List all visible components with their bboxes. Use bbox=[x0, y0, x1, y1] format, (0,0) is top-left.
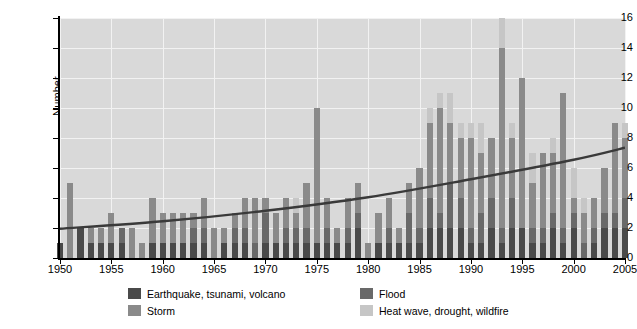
bar-segment bbox=[375, 243, 381, 258]
bar-segment bbox=[365, 243, 371, 258]
bar-segment bbox=[509, 228, 515, 258]
bar-segment bbox=[529, 228, 535, 243]
bar-segment bbox=[437, 213, 443, 228]
bar-segment bbox=[499, 243, 505, 258]
bar-1978 bbox=[345, 198, 351, 258]
x-tick-label: 2000 bbox=[561, 263, 585, 275]
bar-segment bbox=[232, 243, 238, 258]
bar-segment bbox=[345, 198, 351, 228]
bar-segment bbox=[468, 138, 474, 228]
bar-1984 bbox=[406, 183, 412, 258]
gridline-horizontal bbox=[60, 18, 625, 19]
bar-segment bbox=[180, 243, 186, 258]
bar-segment bbox=[437, 108, 443, 213]
bar-2004 bbox=[612, 123, 618, 258]
bar-1981 bbox=[375, 213, 381, 258]
x-tick-label: 1975 bbox=[305, 263, 329, 275]
bar-segment bbox=[232, 213, 238, 228]
x-tick-label: 1985 bbox=[407, 263, 431, 275]
x-tick-mark bbox=[265, 258, 266, 264]
x-tick-mark bbox=[574, 258, 575, 264]
bar-segment bbox=[386, 228, 392, 243]
bar-segment bbox=[201, 243, 207, 258]
legend-item[interactable]: Heat wave, drought, wildfire bbox=[360, 305, 528, 317]
bar-segment bbox=[540, 243, 546, 258]
bar-1995 bbox=[519, 78, 525, 258]
y-tick-label: 12 bbox=[589, 72, 633, 83]
bar-1999 bbox=[560, 93, 566, 258]
bar-segment bbox=[571, 213, 577, 228]
bar-segment bbox=[262, 198, 268, 213]
bar-1959 bbox=[149, 198, 155, 258]
bar-segment bbox=[478, 243, 484, 258]
x-tick-mark bbox=[420, 258, 421, 264]
bar-1996 bbox=[529, 153, 535, 258]
bar-1952 bbox=[77, 228, 83, 258]
bar-segment bbox=[303, 228, 309, 243]
bar-segment bbox=[160, 243, 166, 258]
y-tick-mark bbox=[53, 18, 59, 19]
legend-item[interactable]: Earthquake, tsunami, volcano bbox=[128, 288, 360, 300]
bar-segment bbox=[262, 213, 268, 243]
bar-1974 bbox=[303, 183, 309, 258]
bar-segment bbox=[571, 168, 577, 198]
bar-1969 bbox=[252, 198, 258, 258]
y-tick-mark bbox=[53, 48, 59, 49]
bar-1979 bbox=[355, 183, 361, 258]
bar-segment bbox=[581, 213, 587, 243]
bar-segment bbox=[478, 123, 484, 153]
gridline-horizontal bbox=[60, 108, 625, 109]
bar-segment bbox=[283, 243, 289, 258]
bar-1958 bbox=[139, 243, 145, 258]
bar-segment bbox=[458, 123, 464, 138]
bar-segment bbox=[427, 198, 433, 228]
bar-2003 bbox=[601, 168, 607, 258]
bar-segment bbox=[170, 243, 176, 258]
bar-segment bbox=[355, 213, 361, 228]
bar-1962 bbox=[180, 213, 186, 258]
y-tick-label: 14 bbox=[589, 42, 633, 53]
y-tick-label: 0 bbox=[589, 252, 633, 263]
bar-1966 bbox=[221, 228, 227, 258]
bar-segment bbox=[314, 108, 320, 243]
bar-segment bbox=[478, 213, 484, 243]
bar-1997 bbox=[540, 153, 546, 258]
x-tick-label: 1970 bbox=[253, 263, 277, 275]
bar-segment bbox=[242, 228, 248, 243]
bar-segment bbox=[560, 228, 566, 243]
bar-segment bbox=[509, 138, 515, 198]
bar-2000 bbox=[571, 168, 577, 258]
x-tick-mark bbox=[163, 258, 164, 264]
y-tick-mark bbox=[53, 228, 59, 229]
legend-item[interactable]: Storm bbox=[128, 305, 360, 317]
bar-segment bbox=[252, 198, 258, 243]
bar-1951 bbox=[67, 183, 73, 258]
bar-1994 bbox=[509, 123, 515, 258]
bar-segment bbox=[303, 183, 309, 228]
bar-segment bbox=[571, 198, 577, 213]
bar-segment bbox=[273, 243, 279, 258]
bar-segment bbox=[416, 243, 422, 258]
bar-segment bbox=[396, 228, 402, 243]
x-tick-mark bbox=[111, 258, 112, 264]
bar-segment bbox=[550, 138, 556, 153]
legend-swatch-icon bbox=[360, 305, 373, 316]
bar-segment bbox=[139, 243, 145, 258]
bar-segment bbox=[221, 243, 227, 258]
legend-item[interactable]: Flood bbox=[360, 288, 528, 300]
bar-1998 bbox=[550, 138, 556, 258]
bar-segment bbox=[550, 153, 556, 213]
x-tick-mark bbox=[368, 258, 369, 264]
bar-segment bbox=[190, 228, 196, 243]
bar-segment bbox=[160, 213, 166, 243]
bar-segment bbox=[293, 198, 299, 213]
bar-segment bbox=[581, 198, 587, 213]
bar-1957 bbox=[129, 228, 135, 258]
bar-segment bbox=[529, 243, 535, 258]
x-tick-mark bbox=[522, 258, 523, 264]
bar-segment bbox=[571, 228, 577, 258]
bar-segment bbox=[88, 228, 94, 243]
bar-segment bbox=[540, 228, 546, 243]
legend-swatch-icon bbox=[128, 305, 141, 316]
